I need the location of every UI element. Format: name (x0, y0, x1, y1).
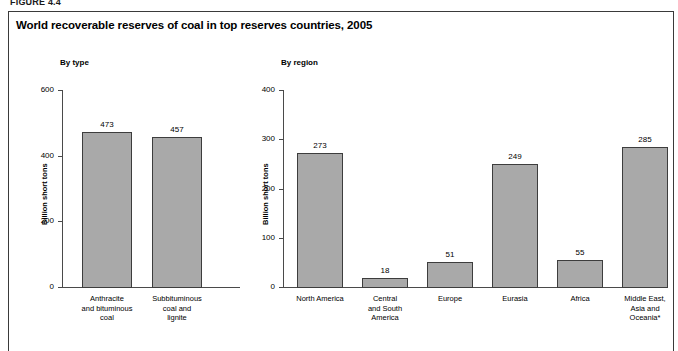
y-axis-tick-label: 600 (22, 85, 54, 94)
y-axis-tick-label: 300 (243, 134, 275, 143)
y-axis-tick (279, 90, 283, 91)
y-axis-tick (279, 287, 283, 288)
y-axis-tick-label: 200 (243, 184, 275, 193)
y-axis-tick (279, 238, 283, 239)
x-axis-category-label: Centraland SouthAmerica (353, 294, 417, 323)
bar (362, 278, 408, 288)
y-axis-tick (279, 189, 283, 190)
y-axis-tick-label: 0 (243, 282, 275, 291)
bar-value-label: 18 (355, 266, 415, 275)
bar-value-label: 285 (615, 135, 675, 144)
y-axis-tick-label: 0 (22, 282, 54, 291)
x-axis-category-label: Middle East,Asia andOceania* (613, 294, 677, 323)
y-axis-tick (279, 139, 283, 140)
bar (427, 262, 473, 288)
panel-heading-by-region: By region (281, 58, 318, 67)
y-axis-tick-label: 200 (22, 216, 54, 225)
panel-heading-by-type: By type (60, 58, 89, 67)
bar (622, 147, 668, 288)
y-axis-line (283, 90, 284, 288)
figure-number-label: FIGURE 4.4 (10, 0, 61, 7)
figure-title: World recoverable reserves of coal in to… (16, 19, 372, 31)
bar (492, 164, 538, 288)
x-axis-category-label: Africa (548, 294, 612, 304)
x-axis-category-label: Eurasia (483, 294, 547, 304)
bar-value-label: 55 (550, 248, 610, 257)
bar-value-label: 249 (485, 152, 545, 161)
bar-value-label: 273 (290, 141, 350, 150)
bar-value-label: 51 (420, 250, 480, 259)
bar (152, 137, 202, 288)
y-axis-tick (58, 287, 62, 288)
x-axis-category-label: North America (288, 294, 352, 304)
y-axis-tick (58, 156, 62, 157)
x-axis-category-label: Anthraciteand bituminouscoal (70, 294, 144, 323)
x-axis-category-label: Subbituminouscoal andlignite (140, 294, 214, 323)
y-axis-tick (58, 90, 62, 91)
y-axis-tick-label: 100 (243, 233, 275, 242)
y-axis-title-right: Billion short tons (261, 163, 270, 225)
y-axis-line (62, 90, 63, 288)
y-axis-tick (58, 221, 62, 222)
bar-value-label: 473 (77, 120, 137, 129)
x-axis-category-label: Europe (418, 294, 482, 304)
y-axis-tick-label: 400 (243, 85, 275, 94)
bar (82, 132, 132, 288)
y-axis-tick-label: 400 (22, 151, 54, 160)
bar (297, 153, 343, 288)
bar (557, 260, 603, 288)
bar-value-label: 457 (147, 125, 207, 134)
